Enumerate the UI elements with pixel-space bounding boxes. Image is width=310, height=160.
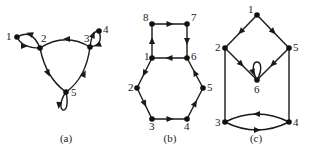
figure: 12345(a)12345678(b)123456(c) [0,0,310,160]
edge-a-2-5 [40,48,66,92]
node-b-5 [200,85,206,91]
node-c-5 [286,45,292,51]
node-label: 6 [254,83,260,95]
graph-caption: (c) [250,132,263,145]
arrowhead-icon [167,21,174,27]
node-label: 3 [149,120,155,132]
node-label: 2 [215,41,221,53]
graph-a: 12345(a) [6,23,109,145]
arrowhead-icon [167,116,174,122]
arrowhead-icon [166,55,173,61]
node-b-2 [134,85,140,91]
arrowhead-icon [63,36,70,42]
node-label: 1 [248,3,254,15]
graph-caption: (a) [60,132,73,145]
node-b-7 [184,21,190,27]
node-label: 1 [144,50,150,62]
node-label: 7 [191,11,197,23]
edge-a-5-3 [66,47,90,92]
graph-b: 12345678(b) [128,11,213,145]
node-a-4 [96,28,102,34]
node-c-6 [254,77,260,83]
arrowhead-icon [140,69,148,78]
arrowhead-icon [140,99,148,108]
node-b-6 [184,55,190,61]
node-c-1 [254,12,260,18]
node-c-4 [286,119,292,125]
graph-caption: (b) [164,132,177,145]
node-a-5 [63,89,69,95]
node-label: 6 [191,50,197,62]
arrowhead-icon [191,99,200,108]
node-label: 4 [184,120,190,132]
node-label: 4 [293,116,299,128]
node-a-2 [37,45,43,51]
arrowhead-icon [190,68,199,77]
node-label: 1 [6,30,12,42]
node-label: 2 [41,32,47,44]
arrowhead-icon [184,38,190,45]
node-label: 5 [293,41,299,53]
edge-a-3-2 [40,40,90,48]
node-label: 4 [103,23,109,35]
node-a-1 [14,34,20,40]
arrowhead-icon [253,111,260,117]
graph-figure: 12345(a)12345678(b)123456(c) [0,0,310,160]
node-b-8 [149,21,155,27]
node-label: 3 [215,116,221,128]
node-label: 5 [71,86,77,98]
arrowhead-icon [149,37,155,44]
arrowhead-icon [21,43,28,49]
node-label: 3 [84,32,90,44]
node-label: 5 [207,81,213,93]
node-label: 2 [128,81,134,93]
node-c-2 [222,45,228,51]
node-label: 8 [143,11,149,23]
node-a-3 [87,44,93,50]
graph-c: 123456(c) [215,3,299,145]
node-c-3 [222,119,228,125]
node-b-1 [149,55,155,61]
